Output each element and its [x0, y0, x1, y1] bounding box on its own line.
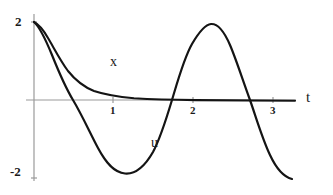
plot-figure: 2 -2 1 2 3 t x u: [0, 0, 333, 195]
curve-label-x: x: [110, 55, 117, 69]
plot-canvas: [0, 0, 333, 195]
x-axis-name-label: t: [306, 90, 310, 105]
x-axis-tick-label-3: 3: [270, 105, 276, 116]
curve-x: [34, 22, 295, 101]
x-axis-tick-label-1: 1: [110, 105, 116, 116]
x-axis-tick-label-2: 2: [190, 105, 196, 116]
y-axis-label-pos2: 2: [15, 15, 22, 28]
y-axis-label-neg2: -2: [10, 165, 21, 178]
curve-label-u: u: [151, 136, 158, 150]
